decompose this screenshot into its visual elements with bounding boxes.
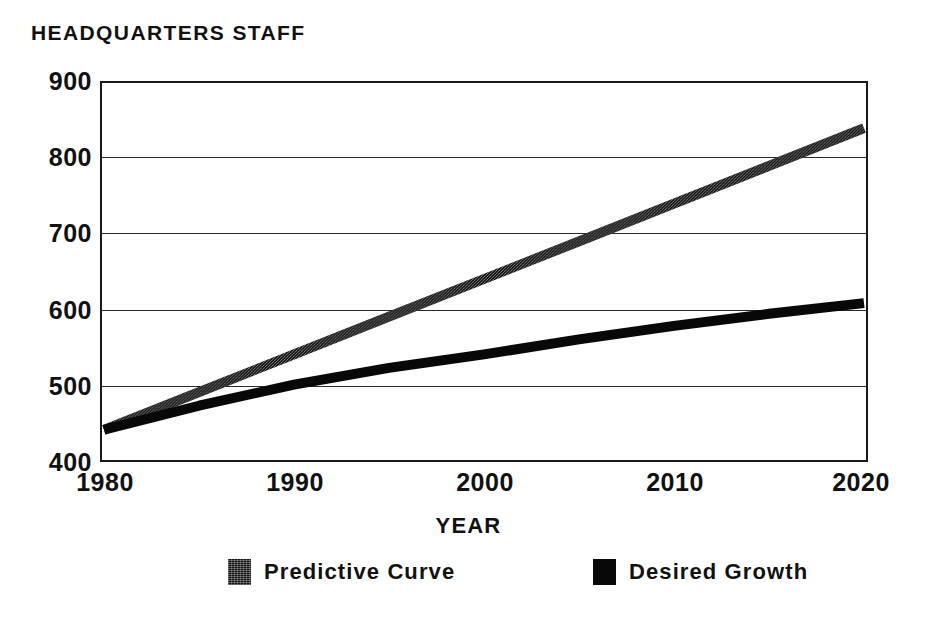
x-tick-label-2020: 2020 xyxy=(832,470,890,495)
legend-item-predictive-curve: Predictive Curve xyxy=(228,557,455,587)
legend-swatch-desired-icon xyxy=(593,559,616,585)
y-tick-label-700: 700 xyxy=(2,221,92,246)
plot-area xyxy=(100,81,868,462)
legend-label-predictive-curve: Predictive Curve xyxy=(264,561,455,583)
legend-swatch-predictive-icon xyxy=(228,559,251,585)
legend-item-desired-growth: Desired Growth xyxy=(593,557,808,587)
chart-figure: HEADQUARTERS STAFF 900 800 700 600 500 4… xyxy=(0,0,937,619)
desired-growth-line xyxy=(104,303,864,430)
x-tick-label-2010: 2010 xyxy=(646,470,704,495)
x-tick-label-1990: 1990 xyxy=(266,470,324,495)
x-axis-label: YEAR xyxy=(0,515,937,537)
y-tick-label-900: 900 xyxy=(2,69,92,94)
series-lines xyxy=(102,83,866,460)
y-tick-label-600: 600 xyxy=(2,298,92,323)
y-tick-label-500: 500 xyxy=(2,374,92,399)
x-tick-label-1980: 1980 xyxy=(76,470,134,495)
chart-legend: Predictive Curve Desired Growth xyxy=(0,557,937,597)
x-tick-label-2000: 2000 xyxy=(456,470,514,495)
legend-label-desired-growth: Desired Growth xyxy=(629,561,808,583)
y-tick-label-800: 800 xyxy=(2,145,92,170)
predictive-curve-line xyxy=(104,128,864,430)
